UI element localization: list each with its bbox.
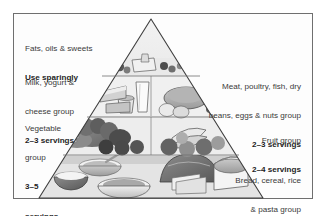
- label-vegetable-group: Vegetable group 3–5 servings: [25, 104, 61, 216]
- label-vegetable-line2: group: [25, 153, 61, 163]
- label-fats-line1: Fats, oils & sweets: [25, 44, 92, 54]
- label-milk-line1: Milk, yogurt &: [25, 78, 74, 88]
- figure-frame: Fats, oils & sweets Use sparingly Milk, …: [13, 13, 313, 199]
- food-pyramid-figure: Fats, oils & sweets Use sparingly Milk, …: [0, 0, 327, 216]
- label-vegetable-servings-count: 3–5: [25, 182, 61, 192]
- label-bread-group: Bread, cereal, rice & pasta group 6–11 s…: [235, 156, 301, 216]
- label-vegetable-line1: Vegetable: [25, 124, 61, 134]
- label-bread-line1: Bread, cereal, rice: [235, 176, 301, 186]
- label-fruit-line1: Fruit group: [252, 136, 301, 146]
- label-vegetable-servings-word: servings: [25, 212, 61, 216]
- label-meat-line1: Meat, poultry, fish, dry: [209, 82, 301, 92]
- label-bread-line2: & pasta group: [235, 205, 301, 215]
